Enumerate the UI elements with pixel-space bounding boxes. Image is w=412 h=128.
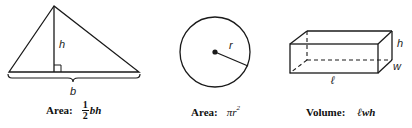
box-length-label: ℓ: [331, 75, 335, 86]
base-brace: [8, 74, 140, 82]
formula-variables: ℓwh: [357, 107, 375, 118]
circle-figure: [180, 17, 250, 87]
formula-expression: 1 2 bh: [82, 100, 102, 121]
box-hidden-edges: [290, 31, 392, 73]
center-point: [212, 49, 217, 54]
formula-word: Area:: [46, 105, 73, 116]
formula-exponent: 2: [236, 105, 240, 112]
triangle-area-formula: Area: 1 2 bh: [46, 100, 101, 121]
box-front-face: [290, 44, 378, 73]
triangle-base-label: b: [70, 86, 76, 97]
radius-line: [215, 52, 248, 66]
box-height-label: h: [397, 38, 403, 49]
fraction: 1 2: [82, 100, 89, 121]
box-volume-formula: Volume: ℓwh: [306, 107, 375, 118]
right-angle-marker: [54, 65, 61, 72]
triangle-outline: [9, 6, 139, 72]
box-top-left-edge: [290, 31, 307, 44]
box-figure: [290, 31, 392, 73]
box-top-right-edge: [378, 31, 392, 44]
formula-variables: πr: [227, 107, 237, 118]
formula-expression: ℓwh: [357, 107, 375, 118]
formula-word: Volume:: [306, 107, 345, 118]
formula-variables: bh: [90, 105, 102, 116]
circle-radius-label: r: [229, 40, 233, 51]
fraction-denominator: 2: [83, 111, 88, 121]
circle-area-formula: Area: πr2: [191, 107, 240, 118]
box-bottom-right-edge: [378, 60, 392, 73]
triangle-height-label: h: [59, 39, 65, 50]
formula-expression: πr2: [227, 107, 240, 118]
triangle-figure: [8, 6, 140, 82]
box-width-label: w: [393, 61, 401, 72]
formula-word: Area:: [191, 107, 218, 118]
